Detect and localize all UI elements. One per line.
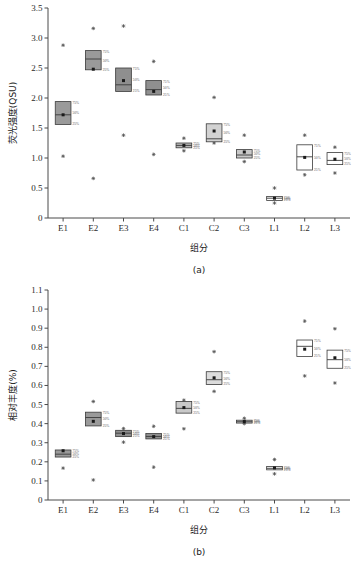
panel-b-figure: 00.10.20.30.40.50.60.70.80.91.01.1E1E2E3…: [0, 282, 359, 564]
pct-label-25-C3: 25%: [254, 156, 261, 160]
y-tick-label: 1.1: [31, 285, 42, 295]
pct-label-50-C1: 50%: [193, 406, 200, 410]
outlier-marker: [243, 133, 247, 137]
x-axis-label: 组分: [190, 524, 208, 535]
pct-label-25-C1: 25%: [193, 146, 200, 150]
outlier-marker: [152, 60, 156, 64]
pct-label-50-E3: 50%: [133, 78, 140, 82]
x-tick-label-C2: C2: [209, 223, 220, 233]
x-tick-label-E1: E1: [58, 223, 68, 233]
outlier-marker: [92, 177, 96, 181]
y-tick-label: 2.5: [31, 63, 43, 73]
panel-b-plot: 00.10.20.30.40.50.60.70.80.91.01.1E1E2E3…: [0, 282, 359, 564]
pct-label-25-E4: 25%: [163, 437, 170, 441]
y-tick-label: 3.0: [31, 33, 43, 43]
pct-label-25-L3: 25%: [344, 162, 351, 166]
pct-label-75-C1: 75%: [193, 401, 200, 405]
outlier-marker: [333, 145, 337, 149]
outlier-marker: [92, 400, 96, 404]
x-tick-label-E1: E1: [58, 505, 68, 515]
outlier-marker: [122, 440, 126, 444]
y-tick-label: 0.9: [31, 323, 43, 333]
pct-label-25-E3: 25%: [133, 434, 140, 438]
outlier-marker: [243, 416, 247, 420]
mean-marker-C2: [213, 130, 216, 133]
y-tick-label: 0.2: [31, 457, 42, 467]
outlier-marker: [273, 458, 277, 462]
mean-marker-L1: [273, 466, 276, 469]
x-tick-label-E3: E3: [119, 223, 129, 233]
mean-marker-L3: [333, 158, 336, 161]
pct-label-50-L3: 50%: [344, 157, 351, 161]
pct-label-75-C2: 75%: [223, 123, 230, 127]
outlier-marker: [92, 478, 96, 482]
pct-label-50-L2: 50%: [314, 156, 321, 160]
outlier-marker: [92, 27, 96, 31]
x-axis-label: 组分: [190, 242, 208, 253]
outlier-marker: [273, 472, 277, 476]
x-tick-label-E3: E3: [119, 505, 129, 515]
pct-label-25-L1: 25%: [284, 198, 291, 202]
outlier-marker: [182, 149, 186, 153]
outlier-marker: [273, 201, 277, 205]
outlier-marker: [182, 136, 186, 140]
mean-marker-C1: [182, 144, 185, 147]
panel-caption: (b): [193, 547, 206, 557]
pct-label-25-E1: 25%: [72, 122, 79, 126]
pct-label-25-C3: 25%: [254, 421, 261, 425]
panel-a-plot: 00.51.01.52.02.53.03.5E1E2E3E4C1C2C3L1L2…: [0, 0, 359, 282]
pct-label-50-C2: 50%: [223, 377, 230, 381]
x-tick-label-L3: L3: [330, 223, 340, 233]
mean-marker-E2: [92, 68, 95, 71]
y-tick-label: 0.3: [31, 438, 43, 448]
pct-label-25-L2: 25%: [314, 354, 321, 358]
pct-label-25-E2: 25%: [103, 68, 110, 72]
pct-label-50-L2: 50%: [314, 347, 321, 351]
y-tick-label: 2.0: [31, 93, 43, 103]
outlier-marker: [212, 390, 216, 394]
y-tick-label: 0.6: [31, 380, 43, 390]
pct-label-50-E2: 50%: [103, 417, 110, 421]
outlier-marker: [243, 160, 247, 164]
mean-marker-C3: [243, 151, 246, 154]
x-tick-label-C2: C2: [209, 505, 220, 515]
pct-label-50-L3: 50%: [344, 358, 351, 362]
outlier-marker: [273, 186, 277, 190]
pct-label-50-C2: 50%: [223, 131, 230, 135]
panel-a-figure: 00.51.01.52.02.53.03.5E1E2E3E4C1C2C3L1L2…: [0, 0, 359, 282]
y-tick-label: 0.5: [31, 400, 43, 410]
outlier-marker: [333, 381, 337, 385]
y-tick-label: 1.5: [31, 123, 43, 133]
x-tick-label-L1: L1: [270, 223, 280, 233]
pct-label-25-E1: 25%: [72, 455, 79, 459]
x-tick-label-C3: C3: [239, 505, 250, 515]
outlier-marker: [333, 327, 337, 331]
outlier-marker: [303, 374, 307, 378]
mean-marker-C3: [243, 420, 246, 423]
mean-marker-E1: [62, 449, 65, 452]
outlier-marker: [303, 133, 307, 137]
pct-label-75-E4: 75%: [163, 80, 170, 84]
outlier-marker: [122, 24, 126, 28]
mean-marker-C2: [213, 376, 216, 379]
y-tick-label: 1.0: [31, 304, 43, 314]
pct-label-75-E1: 75%: [72, 101, 79, 105]
pct-label-25-C2: 25%: [223, 140, 230, 144]
mean-marker-L1: [273, 197, 276, 200]
outlier-marker: [212, 350, 216, 354]
pct-label-25-L3: 25%: [344, 366, 351, 370]
pct-label-25-E4: 25%: [163, 93, 170, 97]
pct-label-75-E2: 75%: [103, 50, 110, 54]
outlier-marker: [212, 96, 216, 100]
y-tick-label: 1.0: [31, 153, 43, 163]
pct-label-25-L2: 25%: [314, 168, 321, 172]
pct-label-75-C2: 75%: [223, 371, 230, 375]
outlier-marker: [122, 133, 126, 137]
box-E2: [85, 412, 101, 426]
x-tick-label-L3: L3: [330, 505, 340, 515]
outlier-marker: [122, 427, 126, 431]
outlier-marker: [61, 466, 65, 470]
panel-caption: (a): [193, 265, 206, 275]
y-axis-label: 相对丰度(%): [7, 369, 18, 421]
pct-label-25-C2: 25%: [223, 382, 230, 386]
